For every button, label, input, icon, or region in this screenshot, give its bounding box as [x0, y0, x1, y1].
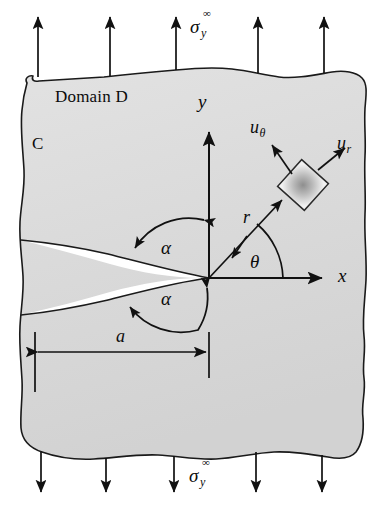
x-axis-label: x: [338, 266, 346, 285]
domain-region: [20, 68, 366, 459]
sigma-superscript-bottom: ∞: [202, 456, 210, 468]
sigma-superscript-top: ∞: [203, 7, 211, 19]
domain-label: Domain D: [55, 88, 128, 105]
domain-boundary-path: [20, 68, 366, 459]
alpha-lower-label: α: [161, 289, 171, 308]
alpha-upper-label: α: [161, 238, 171, 257]
top-load-arrows: [38, 17, 324, 77]
u-r-label: ur: [337, 133, 351, 157]
theta-label: θ: [250, 252, 259, 271]
y-axis-label: y: [198, 92, 206, 111]
sigma-symbol-bottom: σ: [189, 465, 198, 486]
figure-root: σ∞y σ∞y Domain D C y x r θ α α a uθ ur: [0, 0, 390, 509]
stress-label-bottom: σ∞y: [189, 465, 198, 487]
u-r-base: u: [337, 133, 346, 153]
sigma-symbol-top: σ: [190, 16, 199, 37]
diagram-canvas: [0, 0, 390, 509]
u-r-subscript: r: [347, 142, 352, 156]
u-theta-subscript: θ: [260, 126, 266, 140]
sigma-subscript-bottom: y: [200, 475, 205, 490]
crack-length-label: a: [116, 327, 125, 345]
u-theta-base: u: [250, 117, 259, 137]
boundary-curve-label: C: [32, 135, 43, 152]
sigma-subscript-top: y: [201, 26, 206, 41]
u-theta-label: uθ: [250, 117, 265, 141]
radius-label: r: [243, 208, 250, 226]
stress-label-top: σ∞y: [190, 16, 199, 38]
